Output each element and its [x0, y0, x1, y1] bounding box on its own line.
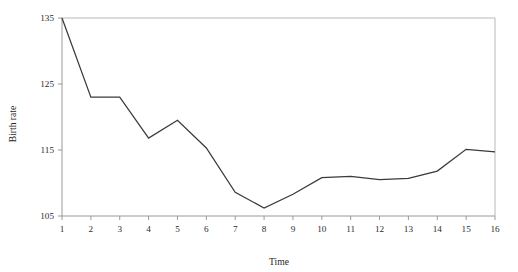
y-tick-label: 135: [40, 13, 54, 23]
x-axis-title: Time: [269, 256, 289, 267]
x-tick-label: 7: [233, 224, 238, 234]
y-axis-title: Birth rate: [7, 106, 18, 143]
y-tick-label: 105: [40, 211, 54, 221]
x-tick-label: 13: [404, 224, 414, 234]
x-tick-label: 9: [291, 224, 296, 234]
x-axis-ticks: [62, 216, 495, 220]
y-tick-labels: 105115125135: [40, 13, 54, 221]
x-tick-label: 6: [204, 224, 209, 234]
plot-canvas: 105115125135 12345678910111213141516 Tim…: [0, 0, 518, 272]
x-tick-label: 8: [262, 224, 267, 234]
y-axis-ticks: [58, 18, 62, 216]
x-tick-label: 12: [375, 224, 385, 234]
plot-frame-border: [62, 18, 495, 216]
y-tick-label: 115: [41, 145, 55, 155]
x-tick-label: 16: [490, 224, 500, 234]
x-tick-label: 4: [146, 224, 151, 234]
x-tick-label: 3: [117, 224, 122, 234]
x-tick-label: 10: [317, 224, 327, 234]
x-tick-label: 5: [175, 224, 180, 234]
x-tick-label: 11: [346, 224, 355, 234]
birth-rate-line: [62, 18, 495, 208]
x-tick-label: 1: [60, 224, 65, 234]
x-tick-label: 15: [462, 224, 472, 234]
x-tick-label: 14: [433, 224, 443, 234]
x-tick-labels: 12345678910111213141516: [60, 224, 500, 234]
data-series-line: [62, 18, 495, 208]
y-tick-label: 125: [40, 79, 54, 89]
x-tick-label: 2: [89, 224, 94, 234]
plot-frame: [62, 18, 495, 216]
birth-rate-line-chart: 105115125135 12345678910111213141516 Tim…: [0, 0, 518, 272]
